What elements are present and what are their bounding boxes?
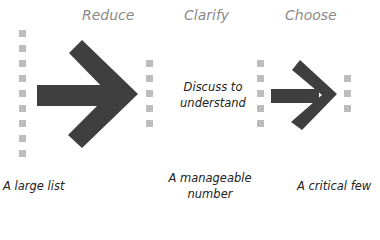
list-item-square [19, 150, 26, 157]
list-item-square [19, 90, 26, 97]
list-item-square [344, 90, 351, 97]
manageable-label-line2: number [155, 186, 265, 202]
list-item-square [146, 90, 153, 97]
list-item-square [146, 120, 153, 127]
manageable-label-line1: A manageable [155, 170, 265, 186]
large-list-label: A large list [3, 178, 64, 194]
clarify-note-line2: understand [168, 95, 258, 111]
clarify-note: Discuss to understand [168, 79, 258, 111]
list-item-square [257, 90, 264, 97]
list-item-square [257, 60, 264, 67]
list-item-square [257, 120, 264, 127]
list-item-square [344, 75, 351, 82]
list-item-square [146, 105, 153, 112]
list-item-square [19, 45, 26, 52]
list-item-square [257, 75, 264, 82]
list-item-square [19, 60, 26, 67]
list-item-square [146, 75, 153, 82]
list-item-square [344, 105, 351, 112]
clarify-note-line1: Discuss to [168, 79, 258, 95]
list-item-square [19, 75, 26, 82]
small-arrow-icon [271, 60, 337, 130]
list-item-square [19, 135, 26, 142]
large-arrow-icon [37, 40, 138, 148]
list-item-square [146, 60, 153, 67]
list-item-square [19, 120, 26, 127]
list-item-square [19, 105, 26, 112]
list-item-square [257, 105, 264, 112]
critical-few-label: A critical few [297, 178, 371, 194]
list-item-square [19, 30, 26, 37]
manageable-label: A manageable number [155, 170, 265, 202]
